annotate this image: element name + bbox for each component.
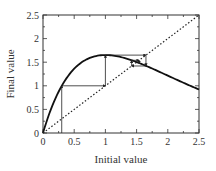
x-tick-label: 0.5 bbox=[68, 136, 81, 147]
plot-area: 00.511.522.500.511.522.5 bbox=[27, 10, 206, 148]
y-tick-label: 0 bbox=[34, 128, 39, 139]
x-tick-label: 2 bbox=[165, 136, 170, 147]
y-tick-label: 2 bbox=[34, 33, 39, 44]
x-tick-label: 2.5 bbox=[193, 136, 206, 147]
y-tick-label: 0.5 bbox=[27, 104, 40, 115]
y-tick-label: 2.5 bbox=[27, 10, 40, 21]
y-tick-label: 1.5 bbox=[27, 57, 40, 68]
y-axis-label: Final value bbox=[4, 49, 16, 98]
cobweb-chart: 00.511.522.500.511.522.5 Initial value F… bbox=[0, 0, 216, 171]
y-tick-label: 1 bbox=[34, 80, 39, 91]
map-curve bbox=[43, 55, 199, 133]
x-tick-label: 0 bbox=[41, 136, 46, 147]
x-tick-label: 1.5 bbox=[130, 136, 143, 147]
identity-line bbox=[43, 15, 199, 133]
x-tick-label: 1 bbox=[103, 136, 108, 147]
x-axis-label: Initial value bbox=[95, 153, 148, 165]
